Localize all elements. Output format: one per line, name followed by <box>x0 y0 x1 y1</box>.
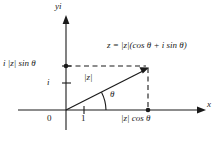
polar-form-equation-label: z = |z|(cos θ + i sin θ) <box>107 41 187 50</box>
y-axis-label: yi <box>55 2 62 11</box>
theta-angle-arc <box>102 92 107 110</box>
modulus-vector-line <box>66 71 143 110</box>
x-tick-label-one: 1 <box>81 114 86 123</box>
imaginary-part-point-marker <box>64 64 69 69</box>
y-tick-label-i: i <box>47 78 50 87</box>
projection-guides <box>67 66 148 109</box>
y-axis <box>63 15 70 130</box>
x-axis-label: x <box>207 100 211 109</box>
modulus-vector <box>66 67 149 110</box>
theta-angle-label: θ <box>110 90 114 99</box>
figure-canvas <box>0 0 221 142</box>
origin-label: 0 <box>47 114 52 123</box>
imaginary-part-label: i |z| sin θ <box>3 59 36 68</box>
complex-plane-figure: yi x z = |z|(cos θ + i sin θ) i |z| sin … <box>0 0 221 142</box>
y-axis-arrowhead <box>63 15 70 24</box>
real-part-label: |z| cos θ <box>121 114 150 123</box>
real-part-point-marker <box>146 108 151 113</box>
modulus-label: |z| <box>84 73 92 82</box>
x-axis-arrowhead <box>197 107 206 114</box>
